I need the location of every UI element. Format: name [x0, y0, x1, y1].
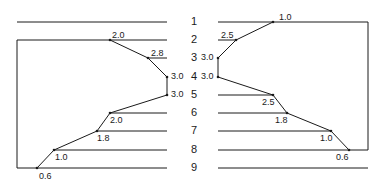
- left-value-label: 3.0: [171, 90, 184, 99]
- right-value-label: 3.0: [201, 72, 214, 81]
- left-point-3: [147, 57, 150, 60]
- left-value-label: 1.0: [55, 153, 68, 162]
- row-number-5: 5: [187, 89, 201, 100]
- right-point-2: [235, 39, 238, 42]
- row-number-9: 9: [187, 162, 201, 173]
- left-point-6: [109, 112, 112, 115]
- left-value-label: 2.8: [151, 49, 164, 58]
- left-point-2: [109, 39, 112, 42]
- right-point-4: [217, 76, 220, 79]
- right-value-label: 1.0: [320, 134, 333, 143]
- row-number-7: 7: [187, 125, 201, 136]
- row-number-2: 2: [187, 34, 201, 45]
- right-point-7: [330, 130, 333, 133]
- right-point-1: [272, 21, 275, 24]
- right-value-label: 0.6: [336, 153, 349, 162]
- row-number-4: 4: [187, 71, 201, 82]
- left-value-label: 1.8: [97, 134, 110, 143]
- left-value-label: 0.6: [39, 172, 52, 181]
- left-value-label: 2.0: [110, 116, 123, 125]
- left-point-8: [53, 149, 56, 152]
- left-value-label: 3.0: [171, 72, 184, 81]
- right-value-label: 3.0: [201, 53, 214, 62]
- left-profile-line: [37, 40, 167, 168]
- right-value-label: 1.0: [279, 13, 292, 22]
- right-value-label: 2.5: [221, 31, 234, 40]
- row-number-8: 8: [187, 144, 201, 155]
- right-value-label: 2.5: [262, 98, 275, 107]
- left-point-4: [166, 76, 169, 79]
- right-point-5: [272, 94, 275, 97]
- right-point-3: [217, 57, 220, 60]
- right-point-8: [348, 149, 351, 152]
- row-number-6: 6: [187, 107, 201, 118]
- right-value-label: 1.8: [275, 116, 288, 125]
- diagram: 1 2 3 4 5 6 7 8 9 2.0 2.8 3.0 3.0 2.0 1.…: [0, 0, 387, 188]
- left-point-9: [36, 167, 39, 170]
- left-point-5: [166, 94, 169, 97]
- row-number-1: 1: [187, 16, 201, 27]
- left-point-7: [96, 130, 99, 133]
- row-number-3: 3: [187, 52, 201, 63]
- right-point-6: [286, 112, 289, 115]
- left-value-label: 2.0: [112, 31, 125, 40]
